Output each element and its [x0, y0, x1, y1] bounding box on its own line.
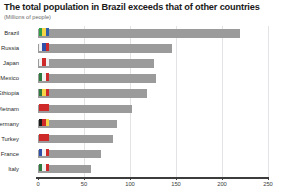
flag-italy-icon — [39, 164, 49, 171]
x-axis-tick — [38, 177, 39, 180]
category-label: Mexico — [0, 71, 19, 86]
category-label: France — [0, 147, 19, 162]
plot-area: BrazilRussiaJapanMexicoEthiopiaVietnamGe… — [38, 26, 268, 177]
flag-russia-icon — [39, 43, 49, 50]
x-axis-tick-label: 200 — [217, 181, 227, 187]
flag-vietnam-icon — [39, 104, 49, 111]
category-label: Japan — [0, 56, 19, 71]
flag-france-icon — [39, 149, 49, 156]
flag-mexico-icon — [39, 73, 49, 80]
x-axis-tick-label: 0 — [36, 181, 39, 187]
flag-brazil-icon — [39, 28, 49, 35]
bar-rows: BrazilRussiaJapanMexicoEthiopiaVietnamGe… — [38, 26, 268, 177]
bar-row: Japan — [38, 56, 268, 71]
x-axis-tick — [130, 177, 131, 180]
category-label: Russia — [0, 41, 19, 56]
bar — [38, 120, 117, 129]
bar — [38, 29, 240, 38]
flag-japan-icon — [39, 58, 49, 65]
x-axis-tick — [176, 177, 177, 180]
flag-ethiopia-icon — [39, 89, 49, 96]
bar-row: France — [38, 147, 268, 162]
x-axis-tick-label: 100 — [125, 181, 135, 187]
category-label: Italy — [0, 162, 19, 177]
bar-row: Brazil — [38, 26, 268, 41]
flag-germany-icon — [39, 119, 49, 126]
chart-title: The total population in Brazil exceeds t… — [4, 2, 260, 12]
bar-row: Turkey — [38, 132, 268, 147]
bar — [38, 105, 132, 114]
gridline — [268, 26, 269, 177]
bar-row: Germany — [38, 117, 268, 132]
category-label: Brazil — [0, 26, 19, 41]
x-axis-tick-label: 250 — [263, 181, 273, 187]
bar — [38, 89, 147, 98]
category-label: Germany — [0, 117, 19, 132]
bar — [38, 135, 113, 144]
bar — [38, 74, 156, 83]
flag-turkey-icon — [39, 134, 49, 141]
category-label: Turkey — [0, 132, 19, 147]
x-axis-tick — [268, 177, 269, 180]
population-bar-chart: The total population in Brazil exceeds t… — [0, 0, 283, 195]
x-axis-tick — [84, 177, 85, 180]
category-label: Ethiopia — [0, 86, 19, 101]
bar-row: Russia — [38, 41, 268, 56]
category-label: Vietnam — [0, 102, 19, 117]
bar-row: Ethiopia — [38, 86, 268, 101]
bar — [38, 59, 154, 68]
bar-row: Mexico — [38, 71, 268, 86]
x-axis-tick-label: 150 — [171, 181, 181, 187]
chart-subtitle: (Millions of people) — [4, 14, 51, 20]
bar — [38, 44, 172, 53]
x-axis-line — [36, 177, 268, 179]
x-axis-tick-label: 50 — [81, 181, 87, 187]
x-axis-tick — [222, 177, 223, 180]
bar-row: Vietnam — [38, 102, 268, 117]
bar-row: Italy — [38, 162, 268, 177]
